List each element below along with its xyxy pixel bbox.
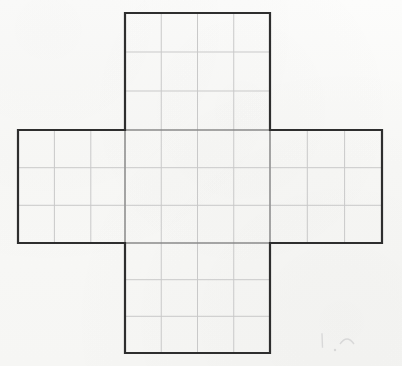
pencil-marks-layer (322, 334, 354, 351)
pencil-dot-mark (334, 349, 336, 351)
grid-lines-layer (18, 13, 382, 353)
cross-net-outline (18, 13, 382, 353)
pencil-caret-mark (340, 339, 354, 344)
cube-net-diagram (0, 0, 402, 366)
panel-outlines-layer (18, 13, 382, 353)
pencil-tick-mark (322, 334, 323, 347)
worksheet-canvas (0, 0, 402, 366)
